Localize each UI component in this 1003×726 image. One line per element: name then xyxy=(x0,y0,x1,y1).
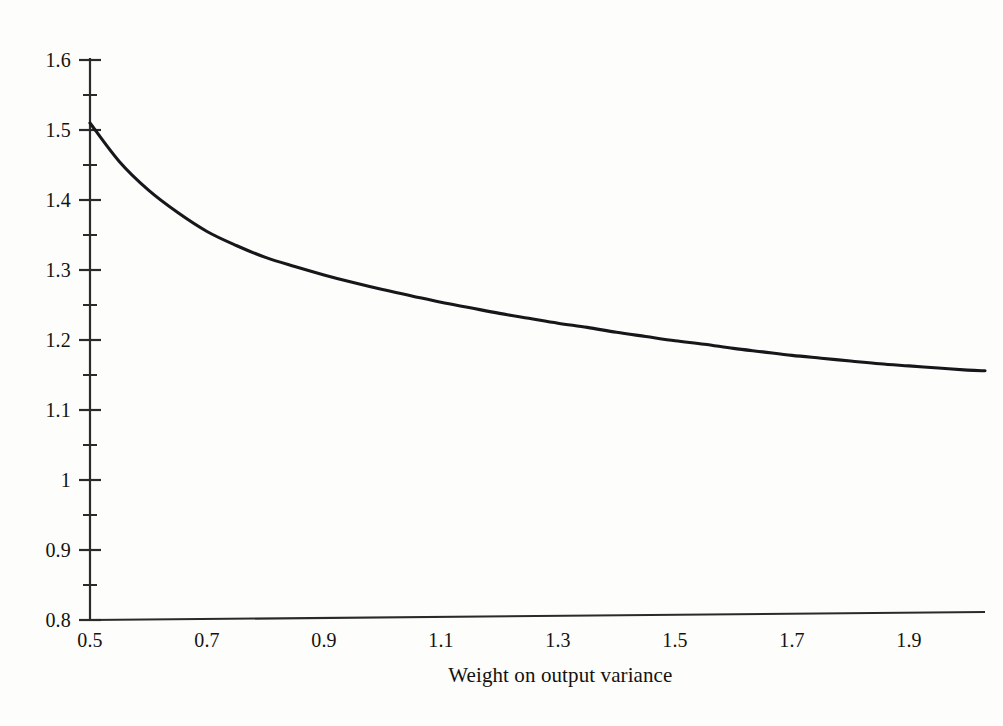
y-axis-tick-label: 1.3 xyxy=(45,259,71,282)
x-axis-tick-label: 0.7 xyxy=(194,629,220,652)
x-axis-line xyxy=(90,612,985,620)
y-axis-tick-label: 1.1 xyxy=(45,399,71,422)
plot-area xyxy=(0,0,1003,726)
data-series-curve xyxy=(90,123,985,371)
y-axis-tick-label: 1.2 xyxy=(45,329,71,352)
y-axis-tick-label: 1.4 xyxy=(45,189,71,212)
x-axis-tick-label: 1.1 xyxy=(428,629,454,652)
y-axis-tick-label: 0.9 xyxy=(45,539,71,562)
x-axis-tick-label: 1.9 xyxy=(896,629,922,652)
y-axis-tick-label: 1 xyxy=(61,469,71,492)
line-series-path xyxy=(90,123,985,371)
x-axis-title: Weight on output variance xyxy=(448,663,672,688)
y-axis-tick-label: 1.5 xyxy=(45,119,71,142)
x-axis-tick-label: 1.3 xyxy=(545,629,571,652)
chart-figure: 0.80.911.11.21.31.41.51.6 0.50.70.91.11.… xyxy=(0,0,1003,726)
axes xyxy=(90,58,985,620)
x-axis-tick-label: 0.9 xyxy=(311,629,337,652)
y-axis-tick-label: 0.8 xyxy=(45,609,71,632)
x-axis-tick-label: 0.5 xyxy=(77,629,103,652)
x-axis-tick-label: 1.7 xyxy=(779,629,805,652)
x-axis-tick-label: 1.5 xyxy=(662,629,688,652)
y-axis-tick-label: 1.6 xyxy=(45,49,71,72)
